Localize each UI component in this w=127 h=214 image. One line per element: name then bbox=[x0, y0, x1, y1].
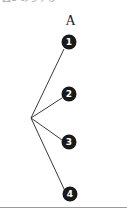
node-3: 3 bbox=[62, 135, 76, 149]
node-3-label: 3 bbox=[66, 137, 72, 147]
radial-diagram-canvas bbox=[0, 0, 127, 214]
node-2: 2 bbox=[62, 87, 76, 101]
edge-hub-to-node-4 bbox=[31, 118, 65, 191]
node-4-label: 4 bbox=[67, 189, 73, 199]
node-1-label: 1 bbox=[66, 37, 72, 47]
bottom-horizontal-rule bbox=[0, 207, 127, 208]
figure-page: 図1 あらすじ A 1 2 3 4 bbox=[0, 0, 127, 214]
edge-group bbox=[31, 49, 65, 191]
node-1: 1 bbox=[62, 35, 76, 49]
node-4: 4 bbox=[63, 187, 77, 201]
node-2-label: 2 bbox=[66, 89, 72, 99]
